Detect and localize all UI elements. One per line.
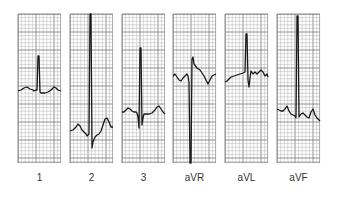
lead-label-2: 2 bbox=[70, 172, 113, 184]
ecg-limb-leads-figure: 1 2 3 aVR aVL aVF bbox=[0, 0, 340, 202]
ecg-waveform-trace bbox=[18, 56, 61, 93]
ecg-strip-lead-avr bbox=[173, 14, 216, 163]
lead-label-avl: aVL bbox=[225, 172, 268, 184]
lead-label-1: 1 bbox=[18, 172, 61, 184]
ecg-strip-lead-avl bbox=[225, 14, 268, 163]
ecg-grid-lead-2 bbox=[70, 14, 113, 163]
ecg-grid-lead-avl bbox=[225, 14, 268, 163]
ecg-grid-lead-avf bbox=[277, 14, 320, 163]
ecg-strip-lead-2 bbox=[70, 14, 113, 163]
lead-label-avf: aVF bbox=[277, 172, 320, 184]
ecg-strip-lead-3 bbox=[122, 14, 165, 163]
ecg-grid-lead-1 bbox=[18, 14, 61, 163]
ecg-grid-lead-3 bbox=[122, 14, 165, 163]
lead-label-3: 3 bbox=[122, 172, 165, 184]
ecg-strip-lead-1 bbox=[18, 14, 61, 163]
lead-label-avr: aVR bbox=[173, 172, 216, 184]
ecg-strip-lead-avf bbox=[277, 14, 320, 163]
ecg-waveform-trace bbox=[70, 14, 113, 148]
ecg-grid-lead-avr bbox=[173, 14, 216, 163]
